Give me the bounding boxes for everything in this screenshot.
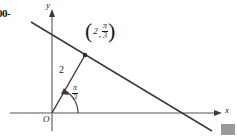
x-axis — [10, 110, 222, 116]
polar-line — [31, 22, 212, 131]
point-coordinate-label: ( 2 , π 3 ) — [85, 22, 115, 41]
angle-denominator: 3 — [72, 94, 78, 102]
left-edge-text-fragment: 00- — [0, 7, 10, 19]
corner-gray-box — [221, 124, 235, 135]
close-paren: ) — [108, 22, 115, 41]
origin-label: O — [43, 115, 50, 124]
radius-length-label: 2 — [59, 65, 64, 75]
x-axis-arrowhead — [214, 110, 222, 116]
figure-canvas — [0, 0, 237, 138]
radius-segment — [52, 55, 85, 113]
open-paren: ( — [85, 22, 92, 41]
angle-numerator: π — [72, 84, 78, 92]
x-axis-label: x — [225, 106, 229, 115]
y-axis-label: y — [46, 1, 50, 10]
angle-label: π 3 — [72, 84, 78, 102]
angle-fraction: π 3 — [72, 84, 78, 102]
point-marker — [83, 53, 87, 57]
y-axis-arrowhead — [49, 9, 55, 17]
polar-line-figure: y x O 2 π 3 ( 2 , π 3 ) 00- — [0, 0, 237, 138]
